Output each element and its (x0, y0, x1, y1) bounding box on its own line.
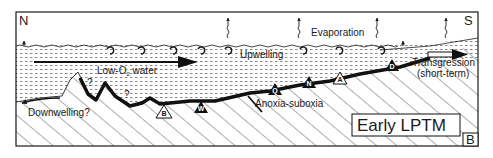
transgression-subtitle: (short-term) (417, 68, 469, 79)
evaporation-arrow-icon (376, 18, 378, 38)
svg-text:N: N (306, 80, 311, 87)
svg-text:W: W (198, 105, 205, 112)
svg-text:D: D (389, 63, 394, 70)
svg-text:B: B (161, 110, 166, 117)
anoxia-suboxia-label: Anoxia-suboxia (255, 98, 324, 109)
paleoenvironment-diagram: N S Evaporation Upwelling Low-O2 water T… (0, 0, 493, 158)
south-label: S (464, 13, 473, 28)
question-mark: ? (124, 89, 130, 100)
figure-title: Early LPTM (357, 116, 446, 135)
evaporation-arrow-icon (445, 18, 447, 38)
evaporation-arrow-icon (227, 18, 229, 38)
evaporation-label: Evaporation (311, 27, 364, 38)
downwelling-label: Downwelling? (28, 107, 90, 118)
svg-text:Q: Q (272, 87, 278, 95)
question-mark: ? (87, 77, 93, 88)
panel-label: B (466, 132, 475, 147)
north-label: N (19, 13, 28, 28)
svg-text:A: A (337, 76, 342, 83)
evaporation-arrow-icon (298, 18, 300, 38)
upwelling-label: Upwelling (240, 49, 283, 60)
transgression-label: Transgression (412, 57, 475, 68)
